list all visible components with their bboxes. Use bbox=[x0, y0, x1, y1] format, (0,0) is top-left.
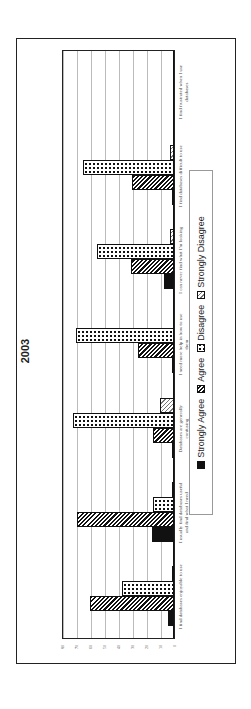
gridline bbox=[105, 51, 106, 638]
chart-title: 2003 bbox=[19, 38, 31, 664]
agree-bar bbox=[132, 175, 174, 190]
disagree-bar bbox=[83, 160, 174, 175]
agree-bar bbox=[138, 344, 174, 359]
legend-item: Strongly Disagree bbox=[196, 216, 206, 299]
category-label: I find frustrated when I use databases bbox=[178, 58, 190, 126]
strongly-agree-bar bbox=[172, 190, 174, 205]
category-label: I find databases difficult to use bbox=[178, 142, 184, 210]
legend-swatch-icon bbox=[197, 291, 205, 299]
legend-label: Agree bbox=[196, 358, 206, 382]
category-label: I find databases enjoyable to use bbox=[178, 563, 184, 631]
gridline bbox=[77, 51, 78, 638]
gridline bbox=[91, 51, 92, 638]
strongly-disagree-bar bbox=[172, 482, 174, 497]
y-tick-label: 70 bbox=[74, 645, 79, 661]
strongly-disagree-bar bbox=[160, 398, 174, 413]
strongly-disagree-bar bbox=[170, 145, 174, 160]
category-label: I can never find what I'm looking bbox=[178, 226, 184, 294]
legend-swatch-icon bbox=[197, 385, 205, 393]
legend-label: Strongly Agree bbox=[196, 399, 206, 458]
disagree-bar bbox=[122, 581, 174, 596]
disagree-bar bbox=[73, 413, 174, 428]
legend-swatch-icon bbox=[197, 344, 205, 352]
strongly-agree-bar bbox=[172, 359, 174, 374]
y-tick-label: 50 bbox=[102, 645, 107, 661]
legend-item: Strongly Agree bbox=[196, 399, 206, 469]
y-tick-label: 30 bbox=[130, 645, 135, 661]
gridline bbox=[119, 51, 120, 638]
y-tick-label: 0 bbox=[172, 645, 177, 661]
disagree-bar bbox=[153, 497, 174, 512]
rotated-chart: 2003 I find databases enjoyable to useI … bbox=[16, 38, 236, 664]
y-tick-label: 40 bbox=[116, 645, 121, 661]
strongly-disagree-bar bbox=[172, 566, 174, 581]
gridline bbox=[63, 51, 64, 638]
disagree-bar bbox=[76, 329, 174, 344]
agree-bar bbox=[131, 259, 174, 274]
legend-swatch-icon bbox=[197, 461, 205, 469]
disagree-bar bbox=[97, 244, 174, 259]
agree-bar bbox=[153, 428, 174, 443]
y-tick-label: 20 bbox=[144, 645, 149, 661]
y-tick-label: 10 bbox=[158, 645, 163, 661]
y-tick-label: 80 bbox=[60, 645, 65, 661]
legend-label: Strongly Disagree bbox=[196, 216, 206, 288]
strongly-agree-bar bbox=[152, 527, 174, 542]
strongly-agree-bar bbox=[172, 443, 174, 458]
legend-label: Disagree bbox=[196, 305, 206, 341]
strongly-agree-bar bbox=[168, 611, 174, 626]
plot-area bbox=[62, 50, 175, 639]
strongly-disagree-bar bbox=[170, 229, 174, 244]
legend: Strongly AgreeAgreeDisagreeStrongly Disa… bbox=[189, 170, 213, 515]
legend-item: Disagree bbox=[196, 305, 206, 352]
y-tick-label: 60 bbox=[88, 645, 93, 661]
strongly-agree-bar bbox=[164, 274, 174, 289]
agree-bar bbox=[90, 596, 174, 611]
gridline bbox=[133, 51, 134, 638]
agree-bar bbox=[77, 512, 174, 527]
legend-item: Agree bbox=[196, 358, 206, 393]
